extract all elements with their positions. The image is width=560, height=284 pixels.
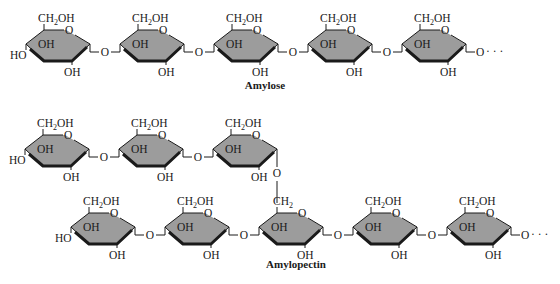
- bond: [466, 44, 475, 52]
- ring-oxygen-label: O: [159, 24, 167, 36]
- oh-label: OH: [109, 249, 126, 261]
- link-oxygen-label: O: [146, 229, 154, 241]
- bond: [90, 44, 99, 52]
- oh-label: OH: [226, 38, 243, 50]
- bond: [417, 227, 426, 235]
- bond: [393, 44, 402, 52]
- amylopectin-caption: Amylopectin: [266, 258, 326, 270]
- oh-label: OH: [346, 66, 363, 78]
- ring-fill: [353, 213, 417, 244]
- ring-fill: [71, 213, 135, 244]
- oh-label: OH: [485, 249, 502, 261]
- ho-label: HO: [55, 232, 72, 244]
- oh-label: OH: [132, 38, 149, 50]
- bond: [184, 44, 193, 52]
- ring-fill: [447, 213, 511, 244]
- link-oxygen-label: O: [383, 46, 391, 58]
- ring-fill: [119, 135, 183, 166]
- ring-oxygen-label: O: [64, 129, 72, 141]
- continuation-dots: · · ·: [486, 45, 503, 57]
- glucose-ring: OCH2OHOHOH: [402, 12, 466, 78]
- bond: [156, 227, 165, 235]
- oh-label: OH: [440, 66, 457, 78]
- ring-fill: [213, 135, 277, 166]
- ring-fill: [308, 30, 372, 61]
- ring-fill: [214, 30, 278, 61]
- link-oxygen-label: O: [194, 151, 202, 163]
- glucose-ring: OCH2OHOH: [259, 195, 323, 261]
- oh-label: OH: [225, 143, 242, 155]
- bond: [110, 149, 119, 157]
- ring-oxygen-label: O: [253, 24, 261, 36]
- ring-fill: [259, 213, 323, 244]
- bond: [135, 227, 144, 235]
- ring-oxygen-label: O: [347, 24, 355, 36]
- ring-fill: [25, 135, 89, 166]
- continuation-dots: · · ·: [531, 228, 548, 240]
- glucose-ring: OCH2OHOHOH: [447, 195, 511, 261]
- link-oxygen-label: O: [521, 229, 529, 241]
- oh-label: OH: [414, 38, 431, 50]
- bond: [299, 44, 308, 52]
- link-oxygen-label: O: [334, 229, 342, 241]
- ring-oxygen-label: O: [392, 207, 400, 219]
- bond: [323, 227, 332, 235]
- glucose-ring: OCH2OHOHOH: [165, 195, 229, 261]
- ring-fill: [402, 30, 466, 61]
- ring-oxygen-label: O: [252, 129, 260, 141]
- bond: [278, 44, 287, 52]
- glucose-ring: OCH2OHOHOHHO: [9, 117, 89, 183]
- glycosidic-link: O: [183, 149, 213, 163]
- ring-oxygen-label: O: [204, 207, 212, 219]
- oh-label: OH: [391, 249, 408, 261]
- ring-fill: [120, 30, 184, 61]
- ring-oxygen-label: O: [65, 24, 73, 36]
- oh-label: OH: [158, 66, 175, 78]
- glucose-ring: OCH2OHOHOH: [213, 117, 277, 183]
- oh-label: OH: [64, 66, 81, 78]
- glucose-ring: OCH2OHOHOHHO: [55, 195, 135, 261]
- bond: [205, 44, 214, 52]
- ring-fill: [26, 30, 90, 61]
- oh-label: OH: [157, 171, 174, 183]
- oh-label: OH: [203, 249, 220, 261]
- oh-label: OH: [365, 221, 382, 233]
- glycosidic-link: O: [323, 227, 353, 241]
- bond: [204, 149, 213, 157]
- ring-oxygen-label: O: [486, 207, 494, 219]
- oh-label: OH: [63, 171, 80, 183]
- glycosidic-link: O: [372, 44, 402, 58]
- oh-label: OH: [251, 171, 268, 183]
- oh-label: OH: [83, 221, 100, 233]
- bond: [438, 227, 447, 235]
- bond: [372, 44, 381, 52]
- link-oxygen-label: O: [428, 229, 436, 241]
- link-oxygen-label: O: [100, 151, 108, 163]
- starch-structure-diagram: OCH2OHOHOHHOOCH2OHOHOHOCH2OHOHOHOCH2OHOH…: [0, 0, 560, 284]
- oh-label: OH: [38, 38, 55, 50]
- oh-label: OH: [177, 221, 194, 233]
- bond: [344, 227, 353, 235]
- ring-fill: [165, 213, 229, 244]
- glycosidic-link: O: [229, 227, 259, 241]
- glucose-ring: OCH2OHOHOH: [308, 12, 372, 78]
- glycosidic-link: O: [417, 227, 447, 241]
- glycosidic-link: O: [135, 227, 165, 241]
- ring-oxygen-label: O: [158, 129, 166, 141]
- glucose-ring: OCH2OHOHOH: [120, 12, 184, 78]
- link-oxygen-label: O: [240, 229, 248, 241]
- ring-oxygen-label: O: [110, 207, 118, 219]
- ring-oxygen-label: O: [441, 24, 449, 36]
- bond: [183, 149, 192, 157]
- glucose-ring: OCH2OHOHOHHO: [10, 12, 90, 78]
- chain-continuation: O· · ·: [466, 44, 503, 58]
- bond: [229, 227, 238, 235]
- oh-label: OH: [131, 143, 148, 155]
- oh-label: OH: [252, 66, 269, 78]
- oh-label: OH: [320, 38, 337, 50]
- bond: [111, 44, 120, 52]
- link-oxygen-label: O: [476, 46, 484, 58]
- glycosidic-link: O: [278, 44, 308, 58]
- chain-continuation: O· · ·: [511, 227, 548, 241]
- oh-label: OH: [459, 221, 476, 233]
